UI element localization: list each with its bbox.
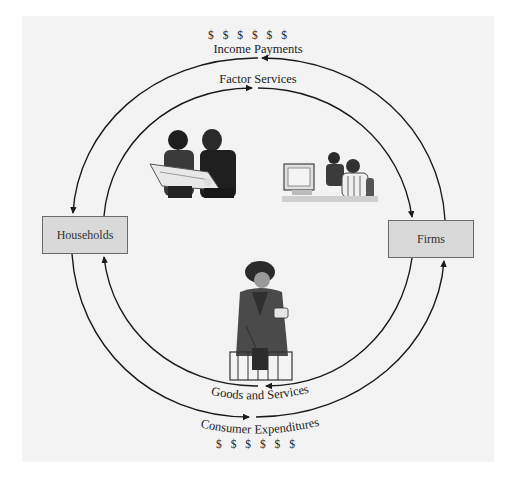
office-workers-at-computer-icon (282, 152, 378, 202)
goods-and-services-label: Goods and Services (210, 382, 310, 402)
factor-services-label: Factor Services (219, 72, 296, 87)
households-label: Households (57, 228, 114, 243)
income-dollar-signs: $ $ $ $ $ $ (208, 29, 290, 41)
workers-reviewing-plans-icon (150, 129, 236, 198)
income-payments-label: Income Payments (213, 42, 302, 57)
goods-services-arrow-left-half (104, 257, 258, 386)
firms-node: Firms (388, 220, 474, 258)
shopper-with-basket-icon (230, 261, 292, 380)
firms-label: Firms (417, 232, 445, 247)
consumer-expenditures-label: Consumer Expenditures (200, 415, 321, 437)
expenditure-dollar-signs: $ $ $ $ $ $ (216, 438, 298, 450)
households-node: Households (42, 216, 128, 254)
